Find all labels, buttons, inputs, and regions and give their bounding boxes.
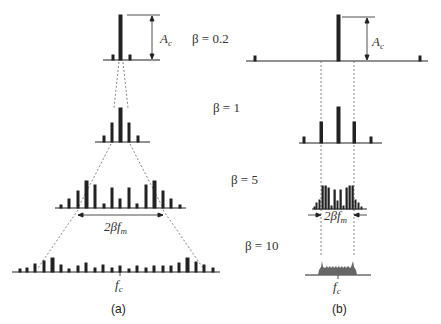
beta-label-10: β = 10 bbox=[245, 238, 278, 253]
bandwidth-label-b: 2βfm bbox=[324, 208, 348, 225]
amplitude-label-a: Ac bbox=[159, 31, 172, 48]
center-freq-label-b: fc bbox=[333, 279, 341, 296]
beta-label-0.2: β = 0.2 bbox=[192, 31, 229, 46]
panel-b: Ac bbox=[246, 15, 428, 316]
panel-a: 2βfm bbox=[12, 15, 220, 316]
spectrum-a-beta-10 bbox=[12, 258, 220, 276]
fm-spectrum-diagram: 2βfm bbox=[0, 0, 441, 324]
spectrum-a-beta-0.2 bbox=[103, 15, 160, 60]
spectrum-a-beta-1 bbox=[95, 108, 150, 142]
center-freq-label-a: fc bbox=[115, 277, 123, 294]
spectrum-b-beta-0.2 bbox=[246, 15, 428, 61]
beta-label-1: β = 1 bbox=[213, 100, 240, 115]
caption-b: (b) bbox=[332, 302, 347, 316]
beta-label-5: β = 5 bbox=[231, 172, 258, 187]
caption-a: (a) bbox=[111, 302, 126, 316]
spectrum-a-beta-5 bbox=[55, 181, 186, 217]
bandwidth-label-a: 2βfm bbox=[104, 219, 128, 236]
spectrum-b-beta-1 bbox=[299, 107, 382, 143]
spectrum-b-beta-10 bbox=[305, 261, 371, 279]
amplitude-label-b: Ac bbox=[371, 34, 384, 51]
